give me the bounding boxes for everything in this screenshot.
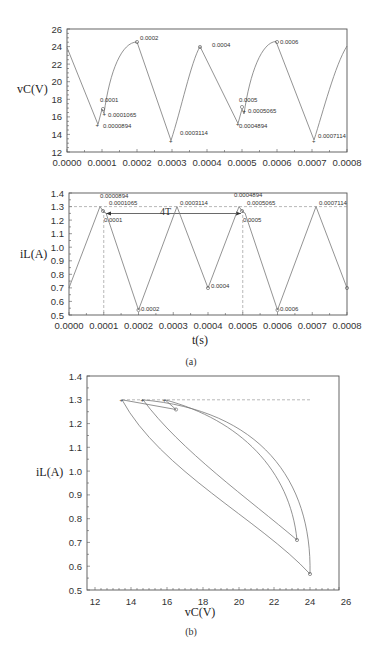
y-tick-label: 16 [51, 111, 62, 122]
y-tick-label: 20 [51, 76, 62, 87]
x-tick-label: 14 [126, 596, 137, 607]
x-tick-label: 0.0001 [87, 157, 116, 168]
y-tick-label: 0.7 [69, 537, 82, 548]
plot-frame [69, 193, 347, 315]
x-axis-labels: 0.0000 0.0001 0.0002 0.0003 0.0004 0.000… [54, 320, 361, 331]
x-tick-label: 0.0003 [159, 320, 188, 331]
y-tick-label: 0.7 [51, 282, 64, 293]
annotation-label: 0.0007114 [318, 133, 347, 139]
y-tick-label: 0.8 [51, 269, 64, 280]
x-axis-labels: 0.0000 0.0001 0.0002 0.0003 0.0004 0.000… [52, 157, 361, 168]
annotation-label: 0.0001 [100, 97, 119, 103]
point-marker: + [103, 111, 107, 117]
x-axis-title: vC(V) [185, 605, 216, 619]
annotation-label: 0.0003114 [180, 200, 209, 206]
y-tick-label: 1.3 [51, 201, 64, 212]
y-tick-label: 18 [51, 94, 62, 105]
point-marker: + [243, 108, 247, 114]
annotation-label: 0.0005065 [247, 200, 276, 206]
x-axis-title: t(s) [192, 333, 208, 347]
y-tick-label: 1.0 [69, 466, 82, 477]
y-tick-label: 0.6 [51, 296, 64, 307]
point-marker: + [141, 397, 145, 403]
x-tick-label: 20 [234, 596, 245, 607]
y-tick-label: 0.9 [51, 255, 64, 266]
point-marker: + [96, 122, 100, 128]
annotation-label: 0.0000894 [100, 193, 129, 199]
chart-vc-vs-time: 12 14 16 18 20 22 24 26 vC(V) 0.0000 0.0… [17, 24, 362, 169]
x-tick-label: 0.0000 [52, 157, 81, 168]
y-tick-label: 24 [51, 41, 62, 52]
x-tick-label: 0.0008 [332, 157, 361, 168]
annotation-label: 0.0001 [104, 217, 123, 223]
il-markers [101, 209, 348, 311]
plot-frame [87, 376, 339, 590]
x-tick-label: 0.0003 [157, 157, 186, 168]
x-axis-ticks [95, 587, 339, 590]
caption-b: (b) [185, 626, 197, 638]
annotation-label: 0.0002 [140, 35, 159, 41]
x-tick-label: 0.0006 [263, 320, 292, 331]
annotation-label: 0.0005 [243, 217, 262, 223]
figure: 12 14 16 18 20 22 24 26 vC(V) 0.0000 0.0… [0, 0, 382, 650]
period-label: 4T [160, 206, 171, 217]
x-tick-label: 26 [341, 596, 352, 607]
caption-a: (a) [185, 356, 196, 368]
y-tick-label: 14 [51, 129, 62, 140]
x-tick-label: 0.0004 [192, 157, 221, 168]
point-marker: + [312, 138, 316, 144]
il-annotations: 0.0000894 0.0001065 0.0001 0.0003114 0.0… [100, 192, 348, 312]
y-tick-label: 1.3 [69, 394, 82, 405]
x-tick-label: 0.0005 [228, 320, 257, 331]
annotation-label: 0.0000894 [103, 123, 132, 129]
x-tick-label: 0.0007 [298, 320, 327, 331]
y-tick-label: 0.9 [69, 489, 82, 500]
annotation-label: 0.0004894 [239, 123, 268, 129]
y-tick-label: 1.1 [69, 442, 82, 453]
vc-annotations: 0.0001 0.0001065 0.0000894 0.0002 0.0003… [100, 35, 347, 139]
y-tick-label: 12 [51, 147, 62, 158]
annotation-label: 0.0007114 [319, 200, 348, 206]
y-axis-title: iL(A) [20, 247, 47, 261]
annotation-label: 0.0004 [212, 42, 231, 48]
x-tick-label: 22 [269, 596, 280, 607]
point-marker: + [120, 397, 124, 403]
y-tick-label: 0.8 [69, 513, 82, 524]
y-tick-label: 22 [51, 59, 62, 70]
y-tick-label: 1.1 [51, 228, 64, 239]
y-tick-label: 26 [51, 24, 62, 35]
y-tick-label: 1.4 [51, 188, 64, 199]
x-tick-label: 0.0005 [227, 157, 256, 168]
annotation-label: 0.0003114 [180, 130, 209, 136]
x-axis-ticks [69, 312, 347, 315]
y-tick-label: 1.0 [51, 242, 64, 253]
y-axis-labels: 12 14 16 18 20 22 24 26 [51, 24, 62, 158]
x-tick-label: 16 [162, 596, 173, 607]
x-tick-label: 0.0008 [332, 320, 361, 331]
y-tick-label: 1.2 [51, 215, 64, 226]
annotation-label: 0.0005 [239, 97, 258, 103]
y-tick-label: 0.5 [51, 310, 64, 321]
y-axis-title: iL(A) [36, 465, 63, 479]
chart-il-vs-vc: 0.5 0.6 0.7 0.8 0.9 1.0 1.1 1.2 1.3 1.4 … [36, 371, 351, 639]
annotation-label: 0.0001065 [109, 200, 138, 206]
x-axis-labels: 12 14 16 18 20 22 24 26 [90, 596, 352, 607]
y-axis-title: vC(V) [17, 82, 48, 96]
x-tick-label: 0.0002 [122, 157, 151, 168]
annotation-label: 0.0004 [211, 283, 230, 289]
x-tick-label: 12 [90, 596, 101, 607]
y-tick-label: 1.2 [69, 418, 82, 429]
annotation-label: 0.0002 [141, 306, 160, 312]
x-tick-label: 0.0004 [193, 320, 222, 331]
y-axis-labels: 0.5 0.6 0.7 0.8 0.9 1.0 1.1 1.2 1.3 1.4 [51, 188, 64, 321]
phase-trajectories [122, 400, 310, 574]
y-tick-label: 0.5 [69, 585, 82, 596]
annotation-label: 0.0005065 [248, 108, 277, 114]
y-tick-label: 1.4 [69, 371, 82, 382]
y-axis-labels: 0.5 0.6 0.7 0.8 0.9 1.0 1.1 1.2 1.3 1.4 [69, 371, 82, 596]
x-tick-label: 0.0002 [124, 320, 153, 331]
chart-il-vs-time: 0.5 0.6 0.7 0.8 0.9 1.0 1.1 1.2 1.3 1.4 … [20, 188, 362, 369]
x-tick-label: 0.0001 [89, 320, 118, 331]
annotation-label: 0.0006 [280, 306, 299, 312]
annotation-label: 0.0006 [280, 39, 299, 45]
